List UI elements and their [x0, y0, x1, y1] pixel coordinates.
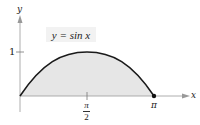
- function-label: y = sin x: [46, 27, 96, 42]
- endpoint-dot: [152, 94, 156, 98]
- fraction-denominator: 2: [84, 113, 89, 122]
- fraction-numerator: π: [84, 101, 89, 110]
- x-axis-arrow-icon: [182, 94, 190, 99]
- area-under-curve: [20, 52, 154, 96]
- x-tick-label-pi: π: [151, 101, 157, 110]
- x-axis-label: x: [191, 91, 196, 100]
- x-tick-label-pi-over-2: π 2: [83, 101, 90, 122]
- y-axis-arrow-icon: [18, 15, 23, 23]
- sine-area-chart: [0, 0, 200, 125]
- y-tick-label-1: 1: [9, 47, 15, 57]
- y-axis-label: y: [17, 5, 22, 14]
